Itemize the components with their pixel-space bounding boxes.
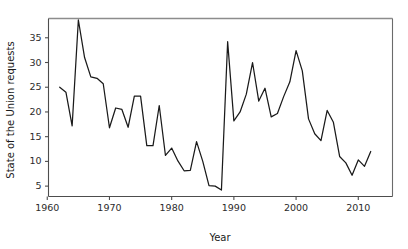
- x-axis-ticks: 196019701980199020002010: [35, 197, 370, 213]
- x-tick-label: 1980: [160, 202, 184, 213]
- x-tick-label: 1970: [97, 202, 121, 213]
- series-line: [60, 20, 371, 190]
- x-tick-label: 2010: [346, 202, 370, 213]
- x-tick-label: 1990: [222, 202, 246, 213]
- x-tick-label: 1960: [35, 202, 59, 213]
- y-tick-label: 15: [29, 131, 41, 142]
- y-tick-label: 20: [29, 106, 41, 117]
- y-axis-ticks: 5101520253035: [29, 32, 48, 191]
- chart-figure: 5101520253035 196019701980199020002010 Y…: [0, 0, 408, 249]
- y-tick-label: 25: [29, 81, 41, 92]
- y-axis-title: State of the Union requests: [5, 41, 16, 178]
- y-tick-label: 30: [29, 57, 41, 68]
- x-tick-label: 2000: [284, 202, 308, 213]
- line-chart-svg: 5101520253035 196019701980199020002010 Y…: [0, 0, 408, 249]
- y-tick-label: 35: [29, 32, 41, 43]
- y-tick-label: 5: [35, 180, 41, 191]
- plot-frame: [49, 19, 393, 197]
- y-tick-label: 10: [29, 155, 41, 166]
- data-series-group: [60, 20, 371, 190]
- x-axis-title: Year: [208, 232, 231, 243]
